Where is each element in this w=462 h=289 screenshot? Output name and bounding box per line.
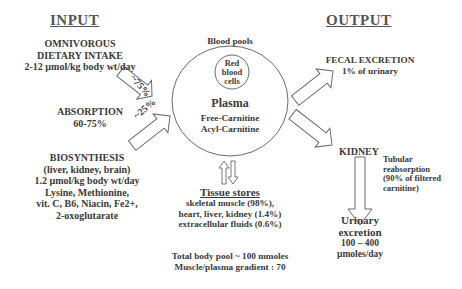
dietary-line-2: DIETARY INTAKE (10, 50, 150, 62)
output-heading: OUTPUT (326, 12, 392, 29)
dietary-line-3: 2-12 µmol/kg body wt/day (10, 61, 150, 73)
biosynthesis-organs: (liver, kidney, brain) (12, 164, 162, 176)
tissue-line-organs: heart, liver, kidney (1.4%) (160, 209, 300, 220)
urinary-excretion: Urinary excretion 100 – 400 µmoles/day (320, 214, 400, 259)
arrow-tissue-up-icon (219, 161, 229, 184)
acyl-carnitine-label: Acyl-Carnitine (185, 124, 275, 135)
arrow-kidney-icon (285, 105, 339, 155)
biosynthesis: BIOSYNTHESIS (liver, kidney, brain) 1.2 … (12, 152, 162, 221)
tubular-line-4: carnitine) (383, 184, 441, 194)
tissue-stores-title: Tissue stores (180, 186, 280, 199)
dietary-intake: OMNIVOROUS DIETARY INTAKE 2-12 µmol/kg b… (10, 38, 150, 73)
arrow-tissue-down-icon (228, 161, 238, 184)
urinary-line-2: excretion (320, 226, 400, 238)
biosynthesis-oxoglutarate: 2-oxoglutarate (12, 210, 162, 222)
kidney-label: KIDNEY (339, 146, 379, 158)
urinary-unit: µmoles/day (320, 249, 400, 259)
absorption: ABSORPTION 60-75% (20, 106, 160, 129)
rbc-line-3: cells (212, 77, 252, 86)
free-carnitine-label: Free-Carnitine (185, 113, 275, 124)
dietary-line-1: OMNIVOROUS (10, 38, 150, 50)
tissue-line-fluids: extracellular fluids (0.6%) (160, 219, 300, 230)
biosynthesis-cofactors: vit. C, B6, Niacin, Fe2+, (12, 198, 162, 210)
fecal-excretion: FECAL EXCRETION 1% of urinary (320, 55, 420, 76)
biosynthesis-rate: 1.2 µmol/kg body wt/day (12, 175, 162, 187)
fecal-value: 1% of urinary (320, 66, 420, 77)
input-heading: INPUT (50, 12, 99, 29)
blood-pools-title: Blood pools (200, 36, 260, 47)
biosynthesis-title: BIOSYNTHESIS (12, 152, 162, 164)
plasma-label: Plasma (190, 97, 270, 111)
fecal-title: FECAL EXCRETION (320, 55, 420, 66)
tissue-stores-list: skeletal muscle (98%), heart, liver, kid… (160, 198, 300, 230)
urinary-line-1: Urinary (320, 214, 400, 226)
tubular-reabsorption: Tubular reabsorption (90% of filtered ca… (383, 155, 441, 194)
urinary-value: 100 – 400 (320, 238, 400, 248)
total-body-pool: Total body pool ~ 100 mmoles (160, 251, 300, 262)
tissue-line-muscle: skeletal muscle (98%), (160, 198, 300, 209)
absorption-value: 60-75% (20, 118, 160, 130)
biosynthesis-precursors: Lysine, Methionine, (12, 187, 162, 199)
muscle-plasma-gradient: Muscle/plasma gradient : 70 (160, 262, 300, 273)
rbc-label: Red blood cells (212, 59, 252, 86)
absorption-title: ABSORPTION (20, 106, 160, 118)
